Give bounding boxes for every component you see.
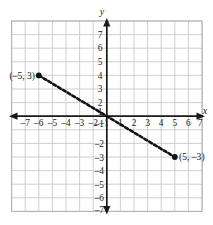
point-label-right: (5, –3) xyxy=(179,151,205,163)
x-tick-label: –3 xyxy=(74,118,85,128)
x-tick-label: 3 xyxy=(145,118,150,128)
y-tick-label: 4 xyxy=(98,71,103,81)
y-tick-label: 3 xyxy=(98,84,103,94)
y-tick-label: –3 xyxy=(94,153,105,163)
x-tick-label: –4 xyxy=(60,118,71,128)
y-tick-label: –4 xyxy=(94,166,105,176)
x-tick-label: –6 xyxy=(33,118,44,128)
endpoint-left xyxy=(36,73,42,79)
y-tick-label: –6 xyxy=(94,193,105,203)
y-tick-label: –2 xyxy=(94,139,105,149)
x-tick-label: 4 xyxy=(159,118,164,128)
y-tick-label: 6 xyxy=(98,43,103,53)
x-tick-label: –5 xyxy=(47,118,58,128)
x-tick-label: 6 xyxy=(186,118,191,128)
point-label-left: (–5, 3) xyxy=(9,70,35,82)
coordinate-plane-figure: x y –7 –6 –5 –4 –3 –2 –1 1 2 3 4 5 6 7 7… xyxy=(0,0,213,225)
y-axis-label: y xyxy=(99,6,105,17)
y-tick-label: 7 xyxy=(98,30,103,40)
endpoint-right xyxy=(172,154,178,160)
y-tick-label: –5 xyxy=(94,180,105,190)
graph-svg: x y –7 –6 –5 –4 –3 –2 –1 1 2 3 4 5 6 7 7… xyxy=(0,0,213,225)
y-tick-label: 5 xyxy=(98,57,103,67)
y-tick-labels-positive: 7 6 5 4 3 2 1 xyxy=(98,30,103,117)
x-tick-label: –7 xyxy=(20,118,31,128)
x-tick-labels-positive: 1 2 3 4 5 6 7 xyxy=(118,118,203,128)
x-axis-label: x xyxy=(202,105,208,116)
x-tick-label: 7 xyxy=(198,118,203,128)
y-tick-label: –7 xyxy=(94,205,105,215)
x-tick-label: 5 xyxy=(172,118,177,128)
y-tick-label: –1 xyxy=(94,119,105,129)
x-tick-label: 2 xyxy=(132,118,137,128)
